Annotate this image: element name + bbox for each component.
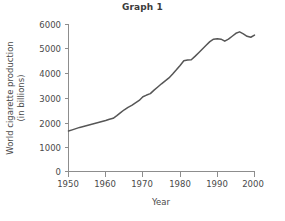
y-axis-title-line1: World cigarette production <box>5 41 15 154</box>
x-axis: 1950 1960 1970 1980 1990 2000 Year <box>57 172 264 208</box>
x-tick-label-1980: 1980 <box>169 179 191 189</box>
y-tick-label-0: 0 <box>56 167 61 177</box>
x-axis-tick-labels: 1950 1960 1970 1980 1990 2000 <box>57 179 264 189</box>
y-axis-tick-labels: 6000 5000 4000 3000 2000 1000 0 <box>39 20 61 177</box>
line-chart-plot: 6000 5000 4000 3000 2000 1000 0 World ci… <box>0 0 285 221</box>
y-axis-ticks <box>65 25 69 172</box>
y-tick-label-1000: 1000 <box>39 143 61 153</box>
x-tick-label-1970: 1970 <box>131 179 153 189</box>
x-tick-label-1990: 1990 <box>206 179 228 189</box>
x-tick-label-2000: 2000 <box>242 179 264 189</box>
y-tick-label-2000: 2000 <box>39 119 61 129</box>
x-tick-label-1960: 1960 <box>94 179 116 189</box>
x-axis-ticks <box>69 172 255 177</box>
x-tick-label-1950: 1950 <box>57 179 79 189</box>
chart-figure: Graph 1 6000 5000 4000 3000 2000 1000 0 <box>0 0 285 221</box>
x-axis-title: Year <box>151 197 171 207</box>
data-series-line <box>69 32 255 131</box>
y-axis: 6000 5000 4000 3000 2000 1000 0 World ci… <box>5 20 69 177</box>
y-tick-label-3000: 3000 <box>39 94 61 104</box>
y-tick-label-4000: 4000 <box>39 69 61 79</box>
y-axis-title: World cigarette production (in billions) <box>5 41 26 154</box>
y-tick-label-6000: 6000 <box>39 20 61 30</box>
y-axis-title-line2: (in billions) <box>16 75 26 122</box>
y-tick-label-5000: 5000 <box>39 44 61 54</box>
